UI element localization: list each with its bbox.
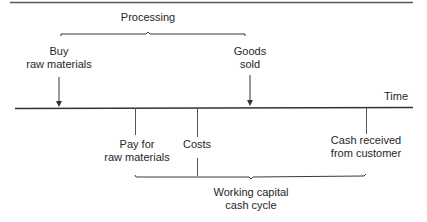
event-buy-line2: raw materials [26, 58, 91, 71]
event-cash-line1: Cash received [331, 134, 401, 147]
processing-bracket [61, 32, 245, 36]
working-capital-label: Working capital cash cycle [214, 186, 289, 212]
time-axis [15, 108, 413, 109]
event-goods-line1: Goods [234, 45, 266, 58]
event-pay-raw-materials: Pay for raw materials [104, 138, 169, 164]
buy-arrow [56, 77, 62, 107]
event-cash-line2: from customer [331, 147, 401, 160]
event-goods-sold: Goods sold [234, 45, 266, 71]
event-costs-line1: Costs [183, 138, 211, 151]
time-axis-label: Time [384, 90, 408, 103]
event-buy-line1: Buy [26, 45, 91, 58]
working-capital-line1: Working capital [214, 186, 289, 199]
event-cash-received: Cash received from customer [331, 134, 401, 160]
working-capital-line2: cash cycle [214, 199, 289, 212]
processing-label: Processing [121, 11, 175, 24]
event-pay-line1: Pay for [104, 138, 169, 151]
event-costs: Costs [183, 138, 211, 151]
working-capital-bracket [135, 174, 366, 179]
event-pay-line2: raw materials [104, 151, 169, 164]
event-buy-raw-materials: Buy raw materials [26, 45, 91, 71]
event-goods-line2: sold [234, 58, 266, 71]
goods-sold-arrow [247, 75, 253, 106]
